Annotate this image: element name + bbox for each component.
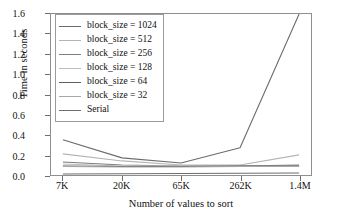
legend: block_size = 1024block_size = 512block_s…	[55, 14, 164, 122]
legend-line-swatch-icon	[59, 40, 81, 41]
x-tick-mark	[181, 176, 182, 181]
x-tick-label: 20K	[92, 180, 152, 191]
legend-item-label: block_size = 256	[87, 49, 152, 59]
legend-line-swatch-icon	[59, 110, 81, 111]
legend-item: block_size = 32	[59, 89, 159, 103]
y-tick-label: 0.6	[0, 109, 25, 120]
x-tick-label: 1.4M	[270, 180, 330, 191]
legend-line-swatch-icon	[59, 96, 81, 97]
legend-item-label: Serial	[87, 105, 109, 115]
y-tick-label: 1.6	[0, 8, 25, 19]
x-axis-title: Number of values to sort	[50, 198, 312, 209]
x-tick-mark	[300, 176, 301, 181]
y-tick-label: 0.0	[0, 171, 25, 182]
y-tick-label: 1.4	[0, 28, 25, 39]
legend-item-label: block_size = 32	[87, 91, 147, 101]
legend-item-label: block_size = 128	[87, 63, 152, 73]
x-tick-mark	[62, 176, 63, 181]
chart-figure: Time in seconds Number of values to sort…	[0, 0, 339, 221]
legend-item: block_size = 1024	[59, 19, 159, 33]
legend-item: Serial	[59, 103, 159, 117]
x-tick-label: 262K	[211, 180, 271, 191]
legend-line-swatch-icon	[59, 54, 81, 55]
legend-line-swatch-icon	[59, 82, 81, 83]
y-tick-label: 0.8	[0, 89, 25, 100]
legend-item: block_size = 128	[59, 61, 159, 75]
legend-item: block_size = 512	[59, 33, 159, 47]
series-line	[63, 166, 299, 167]
y-tick-label: 0.2	[0, 150, 25, 161]
x-tick-mark	[241, 176, 242, 181]
legend-item-label: block_size = 64	[87, 77, 147, 87]
legend-line-swatch-icon	[59, 26, 81, 27]
y-tick-label: 0.4	[0, 130, 25, 141]
legend-item: block_size = 64	[59, 75, 159, 89]
legend-item-label: block_size = 512	[87, 35, 152, 45]
y-tick-label: 1.2	[0, 48, 25, 59]
legend-item: block_size = 256	[59, 47, 159, 61]
y-tick-label: 1.0	[0, 69, 25, 80]
x-tick-mark	[122, 176, 123, 181]
y-tick-mark	[45, 176, 50, 177]
legend-line-swatch-icon	[59, 68, 81, 69]
x-tick-label: 65K	[151, 180, 211, 191]
legend-item-label: block_size = 1024	[87, 21, 157, 31]
series-line	[63, 173, 299, 174]
x-tick-label: 7K	[32, 180, 92, 191]
